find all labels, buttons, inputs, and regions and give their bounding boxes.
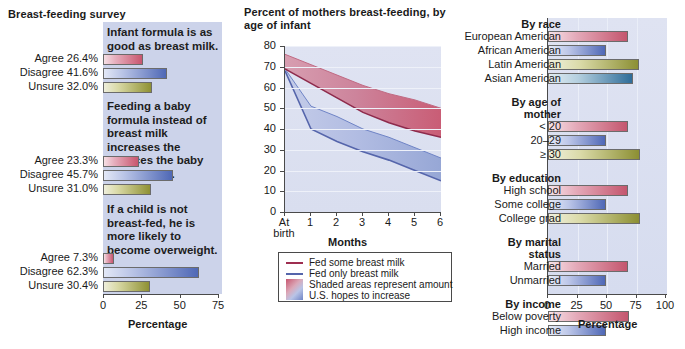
survey-bar: [103, 156, 139, 167]
middle-x-tick-label: 6: [428, 217, 452, 228]
left-axis-tick: [180, 294, 181, 298]
demographic-row-label: African American: [478, 44, 561, 56]
legend-label: Shaded areas represent amount: [309, 279, 452, 290]
demographic-row-label: Latin American: [488, 58, 561, 70]
demographics-panel: By raceEuropean AmericanAfrican American…: [460, 0, 685, 349]
survey-bar-row: Unsure 31.0%: [103, 184, 218, 195]
survey-bar-label: Disagree 45.7%: [0, 168, 98, 180]
left-axis-tick: [218, 294, 219, 298]
survey-bar-label: Disagree 62.3%: [0, 265, 98, 277]
survey-bar-label: Agree 26.4%: [0, 52, 98, 64]
middle-axis-title: Months: [328, 236, 367, 248]
legend-line-swatch: [286, 273, 303, 275]
right-axis-tick: [606, 294, 607, 298]
middle-x-tick-label: 2: [324, 217, 348, 228]
middle-x-tick-label: 3: [350, 217, 374, 228]
survey-bar: [103, 267, 199, 278]
middle-y-tick: [280, 88, 284, 89]
middle-y-tick-label: 80: [252, 39, 276, 51]
legend-label: Fed some breast milk: [309, 257, 405, 268]
chart-legend: Fed some breast milkFed only breast milk…: [278, 252, 452, 302]
survey-bar-row: Disagree 62.3%: [103, 267, 218, 278]
middle-y-tick-label: 30: [252, 143, 276, 155]
middle-y-tick: [280, 129, 284, 130]
middle-x-tick-label: Atbirth: [272, 217, 296, 239]
survey-bar-row: Unsure 32.0%: [103, 82, 218, 93]
demographic-row-label: Asian American: [485, 72, 561, 84]
right-axis-tick-label: 0: [532, 299, 562, 311]
legend-label: U.S. hopes to increase: [309, 290, 410, 301]
demographics-plot: [547, 18, 667, 295]
middle-y-tick-label: 20: [252, 164, 276, 176]
survey-bar: [103, 54, 143, 65]
survey-bar: [103, 68, 167, 79]
legend-area-swatch: [286, 279, 303, 300]
plot-gridline: [285, 108, 441, 109]
middle-y-tick: [280, 67, 284, 68]
left-axis-tick: [103, 294, 104, 298]
demographic-group-header: By race: [521, 18, 561, 30]
right-axis-tick: [665, 294, 666, 298]
middle-y-tick: [280, 150, 284, 151]
demographic-row-label: Some college: [494, 198, 561, 210]
demographic-row-label: Married: [524, 260, 561, 272]
left-axis-line: [103, 294, 219, 295]
middle-panel-title: Percent of mothers breast-feeding, by ag…: [244, 6, 454, 32]
question-statement: If a child is not breast-fed, he is more…: [107, 203, 219, 257]
left-axis-tick-label: 25: [126, 299, 156, 311]
right-axis-tick-label: 50: [591, 299, 621, 311]
demographic-row-label: 20–29: [530, 134, 561, 146]
demographic-row-label: College grad: [499, 212, 561, 224]
right-axis-tick: [547, 294, 548, 298]
question-statement: Infant formula is as good as breast milk…: [107, 26, 219, 53]
middle-y-tick-label: 10: [252, 184, 276, 196]
middle-x-tick-label: 5: [402, 217, 426, 228]
plot-gridline: [285, 67, 441, 68]
demographic-row-label: Unmarried: [510, 274, 561, 286]
left-axis-tick: [141, 294, 142, 298]
survey-bar: [103, 281, 150, 292]
demographic-bar: [548, 213, 640, 224]
survey-bar-row: Agree 26.4%: [103, 54, 218, 65]
right-axis-tick: [577, 294, 578, 298]
plot-gridline: [285, 46, 441, 47]
survey-bar-label: Agree 23.3%: [0, 154, 98, 166]
survey-bar: [103, 184, 151, 195]
survey-bar-label: Unsure 32.0%: [0, 80, 98, 92]
line-chart-panel: Percent of mothers breast-feeding, by ag…: [232, 0, 460, 349]
survey-bar: [103, 253, 114, 264]
middle-x-tick-label: 4: [376, 217, 400, 228]
survey-bar-label: Disagree 41.6%: [0, 66, 98, 78]
plot-gridline: [285, 88, 441, 89]
demographic-row-label: High income: [500, 324, 561, 336]
right-axis-tick: [636, 294, 637, 298]
left-axis-tick-label: 0: [88, 299, 118, 311]
left-axis-tick-label: 50: [165, 299, 195, 311]
legend-label: Fed only breast milk: [309, 268, 398, 279]
middle-y-tick: [280, 46, 284, 47]
right-axis-tick-label: 25: [562, 299, 592, 311]
demographic-row-label: < 20: [539, 120, 561, 132]
survey-panel: Breast-feeding survey Infant formula is …: [0, 0, 232, 349]
right-axis-tick-label: 100: [650, 299, 680, 311]
right-axis-title: Percentage: [578, 318, 637, 330]
demographic-group-header: By education: [492, 172, 561, 184]
demographic-group-header: By maritalstatus: [508, 236, 561, 260]
left-axis-title: Percentage: [128, 318, 187, 330]
plot-gridline: [285, 171, 441, 172]
middle-y-tick: [280, 191, 284, 192]
survey-bar-row: Agree 23.3%: [103, 156, 218, 167]
plot-gridline: [285, 150, 441, 151]
survey-bar-label: Agree 7.3%: [0, 251, 98, 263]
survey-bar-row: Agree 7.3%: [103, 253, 218, 264]
survey-bar-row: Unsure 30.4%: [103, 281, 218, 292]
middle-y-tick: [280, 108, 284, 109]
middle-y-tick-label: 40: [252, 122, 276, 134]
breastfeeding-trend-plot: [284, 46, 441, 213]
plot-gridline: [285, 191, 441, 192]
left-panel-title: Breast-feeding survey: [8, 8, 126, 20]
middle-y-tick-label: 0: [252, 205, 276, 217]
demographic-row-label: European American: [464, 30, 561, 42]
middle-y-tick-label: 60: [252, 81, 276, 93]
survey-bar: [103, 170, 173, 181]
